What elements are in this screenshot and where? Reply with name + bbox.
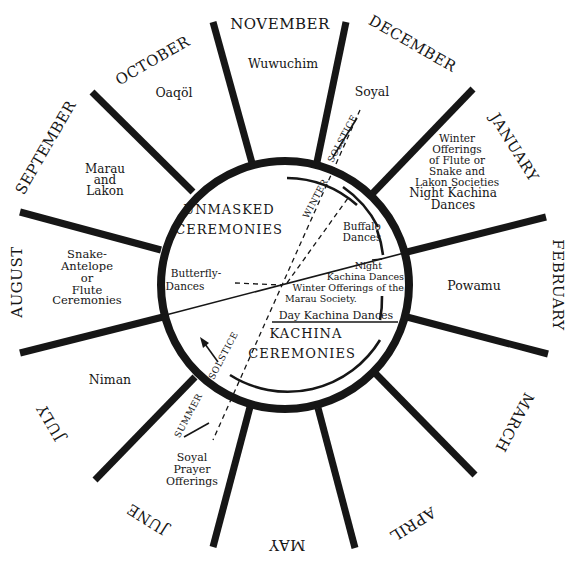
spoke-jan-feb: [407, 217, 546, 252]
winter-offerings-marau-1: Winter Offerings of the: [293, 282, 405, 293]
spoke-feb-mar: [407, 317, 548, 354]
spoke-jul-aug: [20, 317, 163, 353]
ceremony-october: Oaqöl: [155, 85, 192, 100]
buffalo-dances-2: Dances: [343, 231, 382, 243]
month-june: JUNE: [124, 500, 173, 540]
spoke-oct-nov: [213, 22, 252, 163]
month-october: OCTOBER: [112, 32, 193, 89]
spoke-aug-sep: [20, 212, 161, 250]
ceremony-august: Snake- Antelope or Flute Flute Ceremonie…: [52, 247, 122, 307]
month-may: MAY: [268, 536, 306, 554]
day-kachina-dances: Day Kachina Dances: [279, 309, 394, 322]
spoke-may-jun: [213, 407, 250, 547]
night-kachina-1: Night: [355, 260, 383, 271]
calendar-diagram: NOVEMBER DECEMBER JANUARY FEBRUARY MARCH…: [0, 0, 569, 568]
night-kachina-2: Kachina Dances: [327, 271, 404, 282]
ceremony-november: Wuwuchim: [248, 56, 318, 71]
month-january: JANUARY: [485, 108, 543, 185]
month-december: DECEMBER: [366, 11, 460, 76]
winter-label: WINTER: [301, 177, 330, 220]
summer-solstice-label: SOLSTICE: [207, 330, 241, 381]
ceremony-february: Powamu: [447, 278, 501, 293]
month-march: MARCH: [491, 390, 537, 455]
calendar-wheel: NOVEMBER DECEMBER JANUARY FEBRUARY MARCH…: [0, 0, 569, 568]
ceremony-july: Niman: [89, 372, 131, 387]
ceremony-line: Dances: [431, 198, 475, 212]
ceremony-line: Ceremonies: [52, 293, 122, 307]
ceremony-line: Lakon: [86, 184, 124, 198]
ceremony-september: Marau and Lakon: [85, 162, 125, 198]
unmasked-title-2: CEREMONIES: [175, 222, 283, 237]
spoke-apr-may: [318, 408, 355, 548]
butterfly-dances-1: Butterfly-: [171, 267, 222, 279]
month-august: AUGUST: [8, 246, 26, 318]
ceremony-june: Soyal Prayer Offerings: [166, 451, 218, 488]
butterfly-dances-2: Dances: [166, 280, 205, 292]
month-february: FEBRUARY: [549, 239, 567, 331]
winter-offerings-marau-2: Marau Society.: [285, 293, 357, 304]
winter-solstice-label: SOLSTICE: [326, 113, 360, 164]
unmasked-title-1: UNMASKED: [183, 202, 275, 217]
month-april: APRIL: [386, 503, 439, 546]
kachina-title-2: CEREMONIES: [248, 346, 356, 361]
kachina-title-1: KACHINA: [270, 326, 343, 341]
butterfly-pointer: [235, 283, 282, 285]
spoke-mar-apr: [376, 374, 475, 475]
month-september: SEPTEMBER: [12, 97, 80, 197]
ceremony-december: Soyal: [355, 84, 390, 99]
month-july: JULY: [33, 400, 70, 446]
month-november: NOVEMBER: [230, 15, 330, 33]
ceremony-line: Offerings: [166, 475, 218, 488]
